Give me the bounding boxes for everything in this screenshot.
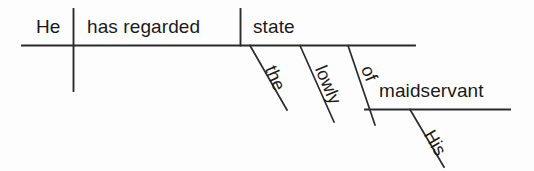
sentence-diagram-canvas: He has regarded state maidservant the lo… bbox=[0, 0, 534, 171]
word-object-of-preposition: maidservant bbox=[379, 81, 484, 100]
word-verb: has regarded bbox=[87, 17, 200, 36]
word-subject: He bbox=[36, 17, 61, 36]
word-direct-object: state bbox=[253, 17, 295, 36]
preposition-slant-line bbox=[348, 46, 375, 126]
